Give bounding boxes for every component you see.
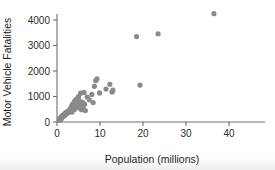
data-point (97, 90, 102, 95)
x-tick-label: 10 (94, 128, 106, 139)
y-tick-label: 2000 (28, 66, 51, 77)
data-point (91, 100, 96, 105)
plot-canvas: 01000200030004000 010203040 Population (… (0, 0, 275, 170)
data-point (107, 82, 112, 87)
data-point (82, 102, 87, 107)
x-tick-label: 20 (137, 128, 149, 139)
x-axis-title: Population (millions) (105, 153, 200, 165)
x-axis-ticks: 010203040 (54, 122, 235, 139)
y-axis-ticks: 01000200030004000 (28, 15, 57, 128)
data-point (137, 82, 142, 87)
data-point (81, 90, 86, 95)
x-tick-label: 0 (54, 128, 60, 139)
data-point (94, 76, 99, 81)
data-point (155, 31, 160, 36)
data-point (211, 11, 216, 16)
data-point (92, 84, 97, 89)
scatter-plot-figure: 01000200030004000 010203040 Population (… (0, 0, 275, 170)
data-points (57, 11, 217, 123)
data-point (110, 88, 115, 93)
y-tick-label: 4000 (28, 15, 51, 26)
y-tick-label: 3000 (28, 40, 51, 51)
y-axis-title: Motor Vehicle Fatalities (1, 18, 13, 127)
x-tick-label: 40 (223, 128, 235, 139)
data-point (89, 92, 94, 97)
data-point (103, 87, 108, 92)
y-tick-label: 0 (44, 117, 50, 128)
data-point (83, 108, 88, 113)
data-point (134, 34, 139, 39)
x-tick-label: 30 (180, 128, 192, 139)
y-tick-label: 1000 (28, 91, 51, 102)
